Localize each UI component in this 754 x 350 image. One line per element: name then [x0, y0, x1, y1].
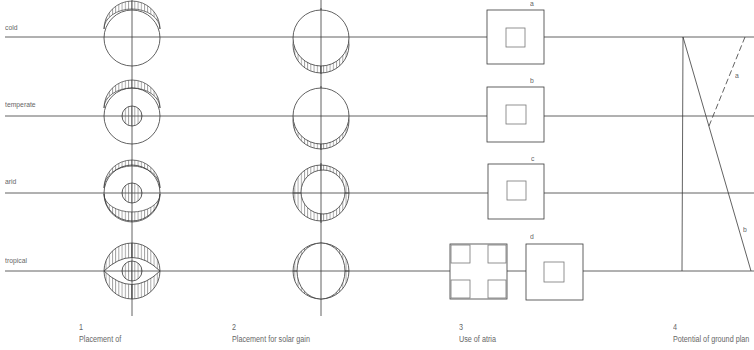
caption-column-3: 3 Use of atria [459, 321, 496, 346]
atrium-label-c: c [531, 155, 534, 163]
atrium-label-b: b [530, 77, 534, 85]
row-label-temperate: temperate [5, 101, 36, 109]
atrium-label-d: d [530, 233, 534, 241]
caption-number: 3 [459, 321, 496, 333]
ground-plan-label-a: a [735, 72, 739, 80]
climate-building-form-diagram [0, 0, 754, 350]
caption-text: Use of atria [459, 333, 496, 345]
caption-number: 4 [673, 321, 749, 333]
caption-text: Placement of [79, 333, 121, 345]
atrium-a [487, 10, 544, 64]
ground-plan-diagonal-b [683, 37, 751, 271]
ground-plan-vertical [682, 37, 683, 271]
ground-plan-dashed-a [709, 37, 745, 126]
atrium-d-central [526, 244, 583, 300]
caption-column-4: 4 Potential of ground plan [673, 321, 749, 346]
ground-plan-label-b: b [743, 226, 747, 234]
caption-number: 2 [232, 321, 310, 333]
row-label-arid: arid [5, 178, 16, 186]
caption-text: Placement for solar gain [232, 333, 310, 345]
caption-number: 1 [79, 321, 121, 333]
caption-column-1: 1 Placement of [79, 321, 121, 346]
row-label-tropical: tropical [5, 257, 27, 265]
climate-row-lines [5, 37, 754, 271]
col2-temperate-symbol [293, 86, 349, 150]
row-label-cold: cold [5, 24, 17, 32]
col1-tropical-symbol [104, 243, 160, 299]
col4-ground-plan [682, 37, 751, 271]
caption-text: Potential of ground plan [673, 333, 749, 345]
caption-column-2: 2 Placement for solar gain [232, 321, 310, 346]
courtyard-core [122, 183, 142, 203]
col2-tropical-symbol [293, 243, 349, 299]
atrium-c [488, 164, 544, 219]
col3-atria [450, 10, 583, 300]
atrium-b [487, 87, 544, 142]
col2-cold-symbol [293, 8, 349, 74]
atrium-label-a: a [530, 0, 534, 8]
courtyard-core [122, 106, 142, 126]
col2-arid-symbol [293, 163, 349, 223]
atrium-d-four-courts [450, 244, 507, 299]
